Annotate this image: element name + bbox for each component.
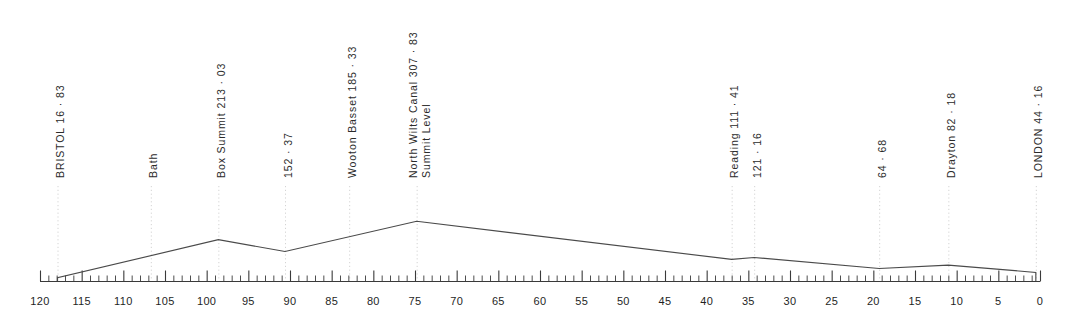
station-label-text: 152 · 37 bbox=[282, 132, 294, 178]
station-label-drayton: Drayton 82 · 18 bbox=[945, 92, 957, 178]
station-label-text: Wooton Basset 185 · 33 bbox=[346, 46, 358, 178]
axis-tick-label: 45 bbox=[659, 295, 672, 307]
axis-tick-label: 15 bbox=[909, 295, 922, 307]
annotation-leader-lines bbox=[58, 186, 1036, 280]
axis-tick-label: 20 bbox=[867, 295, 880, 307]
axis-tick-label: 70 bbox=[450, 295, 463, 307]
axis-tick-label: 75 bbox=[409, 295, 422, 307]
station-label-text: LONDON 44 · 16 bbox=[1032, 85, 1044, 178]
axis-tick-label: 105 bbox=[155, 295, 174, 307]
station-label-text: Bath bbox=[147, 153, 159, 178]
axis-tick-label: 100 bbox=[197, 295, 216, 307]
elevation-profile-line bbox=[58, 221, 1036, 281]
station-label-text: 64 · 68 bbox=[876, 139, 888, 178]
axis-tick-label: 95 bbox=[242, 295, 255, 307]
axis-tick-label: 85 bbox=[325, 295, 338, 307]
station-label-text: 121 · 16 bbox=[751, 132, 763, 178]
station-label-point-152-37: 152 · 37 bbox=[282, 132, 294, 178]
axis-tick-label: 0 bbox=[1037, 295, 1043, 307]
axis-tick-label: 65 bbox=[492, 295, 505, 307]
axis-tick-label: 110 bbox=[114, 295, 132, 307]
axis-tick-label: 90 bbox=[284, 295, 297, 307]
station-label-bath: Bath bbox=[147, 153, 159, 178]
station-label-wooton-basset: Wooton Basset 185 · 33 bbox=[346, 46, 358, 178]
station-label-point-64-68: 64 · 68 bbox=[876, 139, 888, 178]
station-label-box-summit: Box Summit 213 · 03 bbox=[215, 63, 227, 178]
station-label-text: BRISTOL 16 · 83 bbox=[54, 85, 66, 178]
station-label-subtext: Summit Level bbox=[420, 31, 433, 178]
axis-tick-label: 120 bbox=[30, 295, 49, 307]
axis-tick-label: 115 bbox=[72, 295, 90, 307]
station-label-reading: Reading 111 · 41 bbox=[728, 85, 740, 178]
axis-tick-label: 30 bbox=[784, 295, 797, 307]
profile-chart-svg bbox=[0, 0, 1076, 331]
axis-tick-label: 25 bbox=[825, 295, 838, 307]
axis-tick-label: 40 bbox=[700, 295, 713, 307]
station-label-text: Reading 111 · 41 bbox=[728, 85, 740, 178]
axis-tick-label: 55 bbox=[575, 295, 588, 307]
axis-tick-label: 50 bbox=[617, 295, 630, 307]
station-label-london: LONDON 44 · 16 bbox=[1032, 85, 1044, 178]
x-axis bbox=[40, 271, 1041, 282]
station-label-text: Box Summit 213 · 03 bbox=[215, 63, 227, 178]
axis-tick-label: 10 bbox=[950, 295, 963, 307]
axis-tick-label: 35 bbox=[742, 295, 755, 307]
station-label-text: Drayton 82 · 18 bbox=[945, 92, 957, 178]
axis-tick-label: 80 bbox=[367, 295, 380, 307]
station-label-bristol: BRISTOL 16 · 83 bbox=[54, 85, 66, 178]
station-label-point-121-16: 121 · 16 bbox=[751, 132, 763, 178]
elevation-profile-figure: BRISTOL 16 · 83BathBox Summit 213 · 0315… bbox=[0, 0, 1076, 331]
station-label-north-wilts-canal: North Wilts Canal 307 · 83Summit Level bbox=[407, 31, 432, 178]
profile-line-group bbox=[58, 221, 1036, 281]
axis-tick-label: 5 bbox=[995, 295, 1001, 307]
axis-tick-label: 60 bbox=[534, 295, 547, 307]
station-label-text: North Wilts Canal 307 · 83 bbox=[407, 31, 419, 178]
axis-ticks bbox=[41, 271, 1041, 282]
